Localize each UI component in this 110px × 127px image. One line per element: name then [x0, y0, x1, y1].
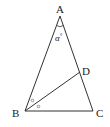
angle-alpha-label: α° — [55, 33, 63, 43]
label-c: C — [96, 107, 103, 119]
label-d: D — [82, 65, 90, 77]
angle-arc-a — [57, 26, 64, 27]
label-a: A — [56, 3, 64, 15]
angle-mark-b-lower — [37, 105, 40, 108]
angle-mark-b-upper — [31, 99, 34, 102]
triangle-diagram: A B C D α° — [0, 0, 110, 127]
label-b: B — [12, 107, 19, 119]
degree-symbol: ° — [60, 33, 63, 39]
segment-ac — [60, 16, 93, 111]
segment-bd — [25, 72, 80, 111]
segment-ab — [25, 16, 60, 111]
